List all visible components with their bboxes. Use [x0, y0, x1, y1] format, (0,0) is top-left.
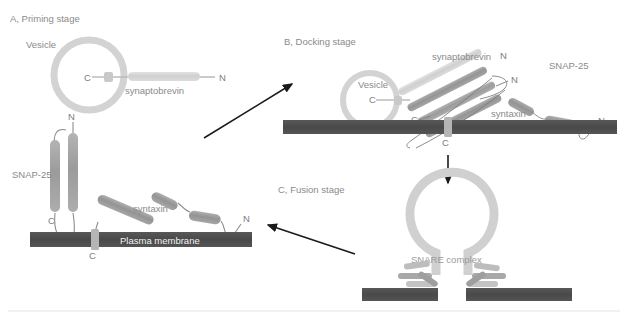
panel-b-title: B, Docking stage [284, 36, 356, 47]
syntaxin-c-label-a: C [89, 250, 96, 261]
vesicle-label-b: Vesicle [358, 79, 388, 90]
syntaxin-linker-1-b [532, 112, 545, 119]
synaptobrevin-helix-a [128, 72, 200, 81]
synaptobrevin-anchor-b [394, 96, 402, 105]
synaptobrevin-n-label-b: N [500, 50, 507, 61]
syntaxin-label-b: syntaxin [491, 108, 526, 119]
snap25-n-label-a: N [68, 111, 75, 122]
syntaxin-label-a: syntaxin [133, 203, 168, 214]
syntaxin-helix-3-a [188, 210, 221, 225]
panel-a-priming-stage: A, Priming stage Vesicle C N synaptobrev… [10, 13, 252, 261]
panel-c-fusion-stage: C, Fusion stage SNARE complex [278, 172, 572, 301]
synaptobrevin-label-a: synaptobrevin [125, 85, 184, 96]
syntaxin-tm-anchor-a [91, 229, 99, 250]
synaptobrevin-label-b: synaptobrevin [432, 51, 491, 62]
snap25-label-b: SNAP-25 [549, 60, 589, 71]
arrow-c-to-a [268, 225, 355, 254]
snap25-helix-2-a [68, 133, 78, 212]
snare-rod-r1-c [474, 262, 501, 272]
snap25-label-a: SNAP-25 [12, 169, 52, 180]
vesicle-c-label-b: C [369, 94, 376, 105]
panel-b-docking-stage: B, Docking stage Vesicle C synaptobrevin… [283, 36, 617, 148]
plasma-membrane-bar-c-right [466, 288, 572, 301]
syntaxin-c-label-b: C [442, 137, 449, 148]
vesicle-label-a: Vesicle [26, 39, 56, 50]
snare-cycle-figure: A, Priming stage Vesicle C N synaptobrev… [0, 0, 628, 320]
plasma-membrane-bar-c-left [362, 288, 438, 301]
snap25-c-label-a: C [48, 215, 55, 226]
syntaxin-linker-1-a [178, 203, 190, 212]
synaptobrevin-n-label-a: N [219, 72, 226, 83]
synaptobrevin-anchor-a [104, 72, 113, 82]
arrow-a-to-b [204, 84, 292, 138]
syntaxin-tm-anchor-b [444, 117, 452, 137]
synaptobrevin-c-label-a: C [84, 72, 91, 83]
plasma-membrane-label-a: Plasma membrane [120, 235, 200, 246]
panel-c-title: C, Fusion stage [278, 184, 345, 195]
bundle-n-label-b: N [511, 74, 518, 85]
syntaxin-n-label-a: N [243, 213, 250, 224]
panel-a-title: A, Priming stage [10, 13, 80, 24]
